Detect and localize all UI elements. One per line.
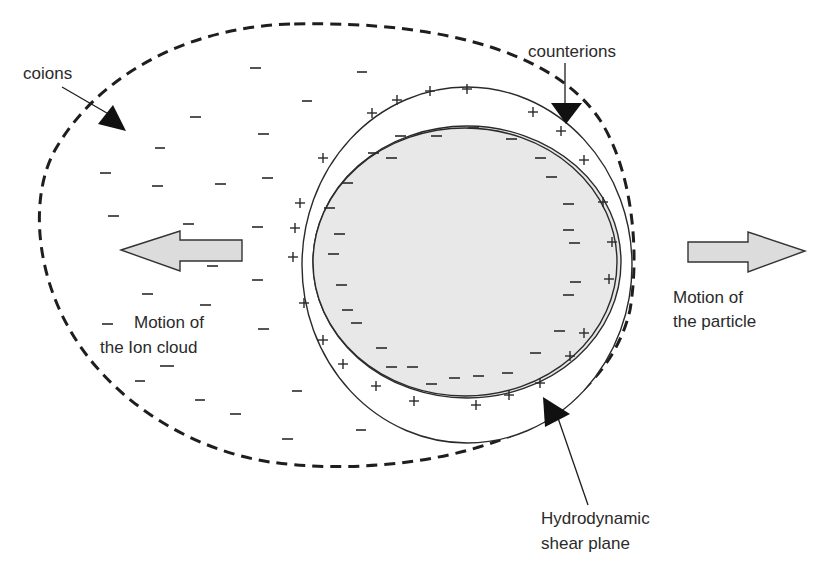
particle-motion-label-line1: Motion of [673,288,743,308]
particle-motion-label-line2: the particle [673,312,756,332]
shear-plane-label-line1: Hydrodynamic [541,509,650,529]
ion-cloud-motion-arrow [121,231,242,271]
coions-label: coions [23,64,72,84]
double-layer-diagram: coions counterions Motion of the Ion clo… [0,0,829,575]
shear-plane-pointer-line [558,418,588,505]
counterions-label: counterions [528,42,616,62]
ion-cloud-motion-label-line2: the Ion cloud [100,338,197,358]
particle-motion-arrow [688,232,805,272]
coions-pointer-arrowhead [98,105,126,131]
shear-plane-label-line2: shear plane [541,534,630,554]
ion-cloud-motion-label-line1: Motion of [134,313,204,333]
